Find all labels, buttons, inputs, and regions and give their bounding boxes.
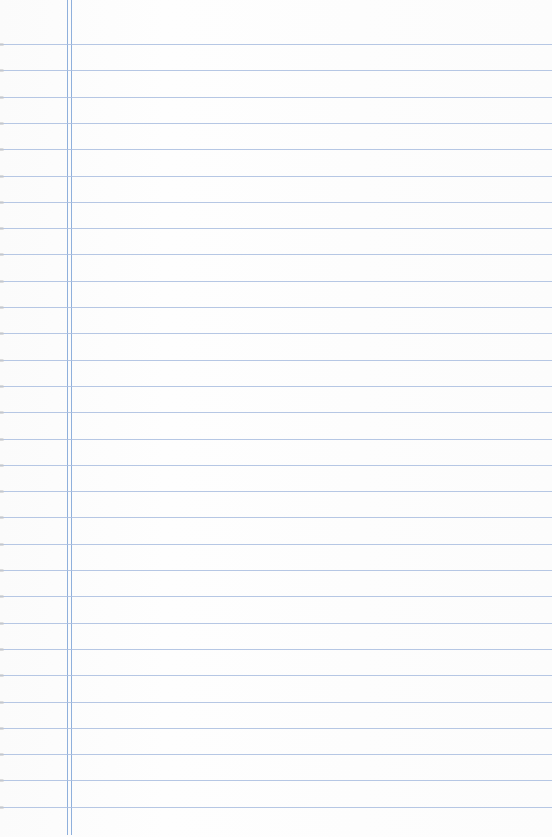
edge-mark — [0, 280, 4, 283]
edge-mark — [0, 332, 4, 335]
edge-mark — [0, 148, 4, 151]
ruled-line — [0, 754, 552, 755]
ruled-line — [0, 517, 552, 518]
ruled-line — [0, 228, 552, 229]
edge-mark — [0, 69, 4, 72]
ruled-line — [0, 675, 552, 676]
ruled-line — [0, 123, 552, 124]
ruled-line — [0, 70, 552, 71]
edge-mark — [0, 122, 4, 125]
ruled-line — [0, 307, 552, 308]
notebook-paper — [0, 0, 552, 837]
edge-mark — [0, 96, 4, 99]
edge-mark — [0, 516, 4, 519]
ruled-line — [0, 333, 552, 334]
ruled-line — [0, 465, 552, 466]
ruled-line — [0, 44, 552, 45]
ruled-line — [0, 570, 552, 571]
ruled-line — [0, 807, 552, 808]
edge-mark — [0, 595, 4, 598]
edge-mark — [0, 674, 4, 677]
edge-mark — [0, 438, 4, 441]
ruled-line — [0, 386, 552, 387]
ruled-line — [0, 360, 552, 361]
ruled-line — [0, 412, 552, 413]
edge-mark — [0, 701, 4, 704]
edge-mark — [0, 779, 4, 782]
ruled-line — [0, 281, 552, 282]
edge-mark — [0, 253, 4, 256]
ruled-line — [0, 728, 552, 729]
edge-mark — [0, 385, 4, 388]
edge-mark — [0, 464, 4, 467]
ruled-line — [0, 702, 552, 703]
edge-mark — [0, 648, 4, 651]
ruled-line — [0, 254, 552, 255]
ruled-line — [0, 544, 552, 545]
ruled-line — [0, 149, 552, 150]
ruled-line — [0, 439, 552, 440]
edge-mark — [0, 490, 4, 493]
edge-mark — [0, 569, 4, 572]
ruled-line — [0, 176, 552, 177]
edge-mark — [0, 806, 4, 809]
edge-mark — [0, 359, 4, 362]
edge-mark — [0, 306, 4, 309]
ruled-line — [0, 649, 552, 650]
ruled-line — [0, 97, 552, 98]
margin-line-left — [67, 0, 68, 835]
edge-mark — [0, 622, 4, 625]
edge-mark — [0, 727, 4, 730]
edge-mark — [0, 43, 4, 46]
margin-line-right — [71, 0, 72, 835]
ruled-line — [0, 623, 552, 624]
edge-mark — [0, 543, 4, 546]
edge-mark — [0, 411, 4, 414]
edge-mark — [0, 227, 4, 230]
edge-mark — [0, 753, 4, 756]
edge-mark — [0, 201, 4, 204]
ruled-line — [0, 780, 552, 781]
edge-mark — [0, 175, 4, 178]
ruled-line — [0, 202, 552, 203]
ruled-line — [0, 596, 552, 597]
ruled-line — [0, 491, 552, 492]
